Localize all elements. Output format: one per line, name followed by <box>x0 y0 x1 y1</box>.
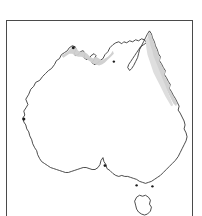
tasmania-island <box>135 195 152 215</box>
australia-map <box>7 21 192 216</box>
south-east-marker-b <box>151 185 153 187</box>
spencer-gulf-marker <box>104 164 107 167</box>
australia-mainland-coastline <box>23 31 187 183</box>
figure-panel <box>0 0 202 216</box>
north-coast-marker <box>72 46 75 49</box>
map-frame <box>6 20 193 216</box>
west-coast-marker <box>22 117 25 120</box>
gulf-coast-marker <box>113 60 115 62</box>
south-east-marker-a <box>135 184 137 186</box>
